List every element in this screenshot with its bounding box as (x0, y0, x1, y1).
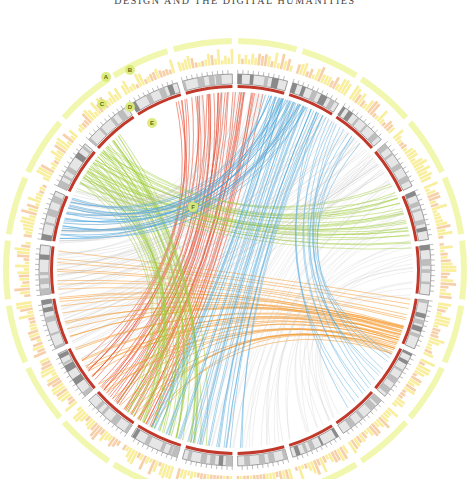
svg-text:E: E (150, 120, 154, 126)
callout-c: C (97, 99, 107, 109)
callout-a: A (101, 72, 111, 82)
svg-text:B: B (128, 67, 133, 73)
svg-text:F: F (191, 204, 195, 210)
svg-text:A: A (104, 74, 109, 80)
svg-text:D: D (128, 104, 133, 110)
chord-links (57, 92, 413, 448)
svg-text:C: C (100, 101, 105, 107)
callout-f: F (188, 202, 198, 212)
circos-chord-diagram: ABCDEF (0, 0, 470, 479)
callout-b: B (125, 65, 135, 75)
callout-d: D (125, 102, 135, 112)
callout-e: E (147, 118, 157, 128)
